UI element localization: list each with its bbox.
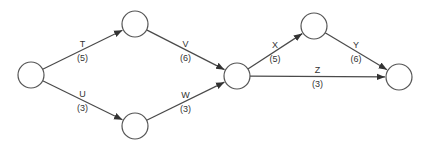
edge-y	[325, 33, 387, 70]
event-node-n5	[301, 13, 327, 39]
activity-label: X	[272, 41, 278, 50]
duration-label: (6)	[351, 55, 362, 64]
edge-u	[43, 81, 123, 120]
edge-w	[147, 82, 225, 120]
edge-t	[43, 30, 123, 69]
duration-label: (6)	[180, 53, 191, 62]
event-node-n3	[122, 113, 148, 139]
duration-label: (5)	[270, 55, 281, 64]
edge-v	[147, 30, 225, 70]
activity-label: W	[181, 91, 190, 100]
event-node-n6	[386, 64, 412, 90]
event-node-n4	[224, 63, 250, 89]
edge-z	[250, 76, 385, 77]
event-node-n2	[122, 11, 148, 37]
duration-label: (5)	[77, 53, 88, 62]
duration-label: (3)	[180, 105, 191, 114]
activity-label: Y	[353, 41, 359, 50]
duration-label: (3)	[77, 104, 88, 113]
network-diagram	[0, 0, 428, 145]
event-node-n1	[18, 62, 44, 88]
activity-label: T	[80, 39, 86, 48]
activity-label: V	[183, 39, 189, 48]
activity-label: Z	[315, 66, 321, 75]
activity-label: U	[79, 90, 86, 99]
duration-label: (3)	[312, 80, 323, 89]
